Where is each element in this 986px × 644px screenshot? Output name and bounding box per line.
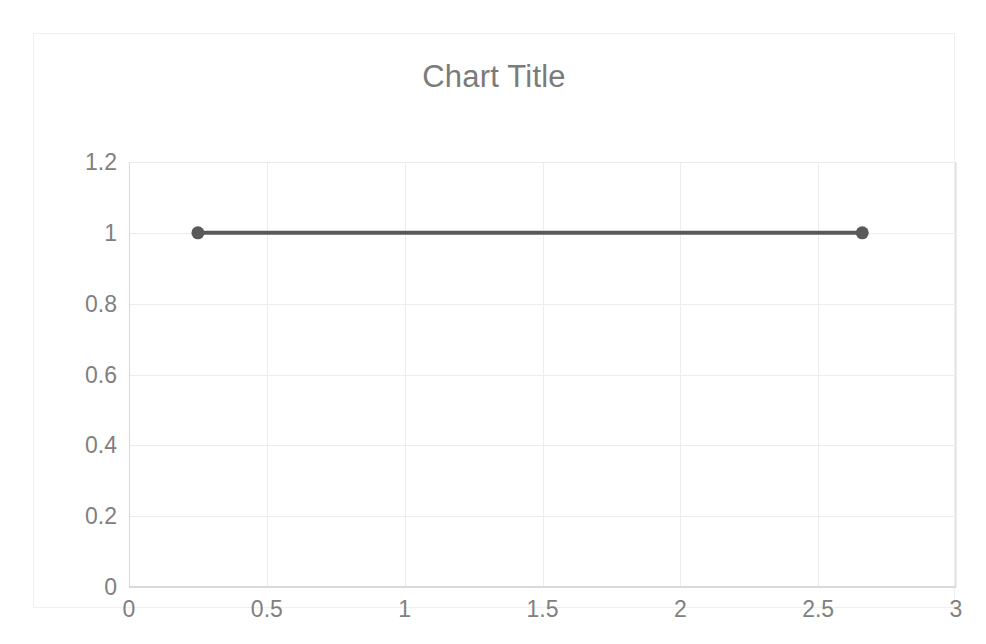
- y-tick-label: 0.4: [85, 432, 117, 459]
- y-tick-label: 1: [104, 219, 117, 246]
- y-tick-label: 0.8: [85, 290, 117, 317]
- y-tick-label: 0: [104, 574, 117, 601]
- y-axis-tick-labels[interactable]: 1.210.80.60.40.20: [54, 162, 117, 587]
- x-tick-label: 2: [674, 596, 687, 623]
- series-plot[interactable]: [129, 162, 956, 587]
- gridline-horizontal: [129, 587, 956, 588]
- x-tick-label: 0.5: [251, 596, 283, 623]
- x-axis-tick-labels[interactable]: 00.511.522.53: [129, 596, 956, 631]
- y-tick-label: 0.2: [85, 503, 117, 530]
- data-point-marker[interactable]: [856, 226, 869, 239]
- x-tick-label: 0: [123, 596, 136, 623]
- x-tick-label: 3: [950, 596, 963, 623]
- gridline-vertical: [956, 162, 957, 587]
- plot-area[interactable]: [129, 162, 956, 587]
- x-tick-label: 1.5: [527, 596, 559, 623]
- x-tick-label: 1: [398, 596, 411, 623]
- data-point-marker[interactable]: [191, 226, 204, 239]
- y-tick-label: 1.2: [85, 149, 117, 176]
- chart-title[interactable]: Chart Title: [34, 59, 954, 95]
- chart-frame[interactable]: Chart Title 1.210.80.60.40.20 00.511.522…: [33, 33, 955, 608]
- y-tick-label: 0.6: [85, 361, 117, 388]
- x-tick-label: 2.5: [802, 596, 834, 623]
